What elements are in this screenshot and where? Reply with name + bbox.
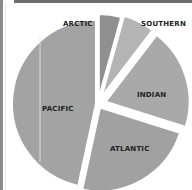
label-arctic: ARCTIC bbox=[63, 20, 93, 28]
label-southern: SOUTHERN bbox=[141, 20, 186, 28]
label-indian: INDIAN bbox=[137, 91, 166, 99]
label-atlantic: ATLANTIC bbox=[110, 145, 150, 153]
label-pacific: PACIFIC bbox=[42, 105, 74, 113]
pie-slice-pacific bbox=[12, 20, 96, 186]
